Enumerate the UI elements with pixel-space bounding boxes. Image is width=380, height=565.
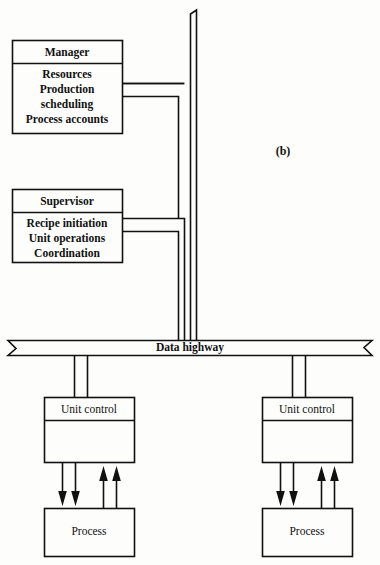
arrow-right-down-1-head — [276, 491, 285, 506]
diagram-canvas: Manager Resources Production scheduling … — [0, 0, 380, 565]
process-left-title: Process — [44, 525, 134, 538]
arrow-right-up-1-head — [317, 466, 326, 481]
supervisor-line-3: Coordination — [12, 247, 122, 260]
arrow-left-down-1-head — [58, 491, 67, 506]
arrow-left-down-2-head — [71, 491, 80, 506]
unit-control-right-title: Unit control — [262, 403, 352, 416]
manager-link-lower — [123, 97, 179, 219]
supervisor-line-1: Recipe initiation — [12, 217, 122, 230]
process-right-title: Process — [262, 525, 352, 538]
manager-line-2: Production — [12, 83, 122, 96]
figure-caption: (b) — [258, 145, 308, 158]
manager-line-1: Resources — [12, 68, 122, 81]
bus-trunk-main — [191, 10, 197, 341]
arrow-right-up-2-head — [330, 466, 339, 481]
supervisor-title: Supervisor — [12, 195, 122, 208]
arrow-left-up-1-head — [99, 466, 108, 481]
arrow-right-down-2-head — [289, 491, 298, 506]
arrow-left-up-2-head — [112, 466, 121, 481]
data-highway-label: Data highway — [130, 341, 250, 354]
unit-control-left-title: Unit control — [44, 403, 134, 416]
supervisor-line-2: Unit operations — [12, 232, 122, 245]
bus-trunk-secondary — [123, 219, 185, 342]
manager-line-3: scheduling — [12, 98, 122, 111]
manager-title: Manager — [12, 46, 122, 59]
manager-line-4: Process accounts — [12, 113, 122, 126]
supervisor-link-lower — [123, 232, 179, 342]
